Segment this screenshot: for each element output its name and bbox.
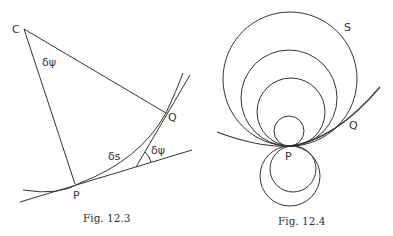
caption-fig-12-3: Fig. 12.3 [83,212,130,224]
label-delta-psi-tangent: δψ [151,144,165,157]
label-c: C [12,23,20,36]
label-p: P [285,150,292,163]
radius-cp [24,29,75,184]
figure-12-3: C δψ P Q δs δψ Fig. 12.3 [12,23,192,224]
radius-cq [24,29,166,113]
tangent-at-p [20,150,192,202]
circle-2 [241,50,337,146]
curve-arc [23,73,183,192]
circle-small-top [274,116,304,146]
figure-12-4: S P Q Fig. 12.4 [217,12,380,227]
circle-3 [257,78,325,146]
label-q: Q [168,111,177,124]
label-p: P [73,189,80,202]
label-delta-psi-c: δψ [42,56,56,69]
label-q: Q [349,119,358,132]
label-s: S [344,21,351,34]
circle-s [223,12,357,146]
caption-fig-12-4: Fig. 12.4 [278,215,326,227]
diagram-canvas: C δψ P Q δs δψ Fig. 12.3 S P Q Fig. 12.4 [0,0,393,236]
label-delta-s: δs [108,150,121,163]
